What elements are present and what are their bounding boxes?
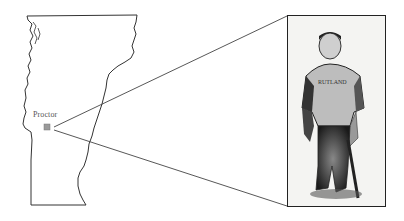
town-marker-icon [44, 124, 50, 130]
diagram: Proctor RUTLAND [0, 0, 404, 221]
town-label: Proctor [33, 110, 57, 119]
svg-text:RUTLAND: RUTLAND [318, 79, 347, 85]
connector-line-top [54, 16, 287, 127]
connector-line-bottom [54, 130, 287, 206]
player-figure: RUTLAND [288, 16, 385, 206]
lake-islands [33, 22, 40, 44]
player-photo: RUTLAND [287, 15, 386, 207]
